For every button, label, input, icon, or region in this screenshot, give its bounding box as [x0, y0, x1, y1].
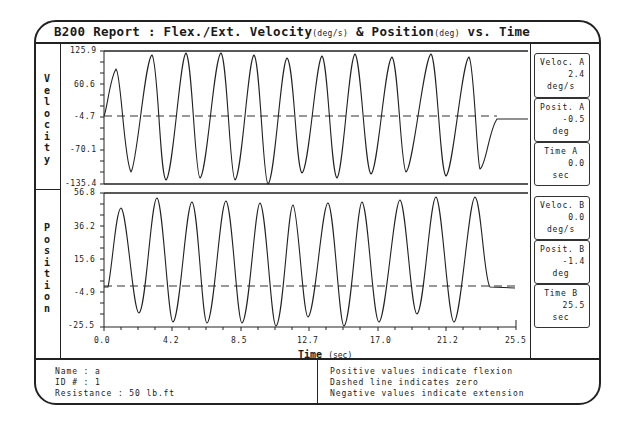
note-extension: Negative values indicate extension — [330, 388, 524, 399]
time-a-value: 0.0 — [537, 158, 585, 170]
veloc-b-value: 0.0 — [537, 212, 585, 224]
posit-b-label: Posit. B — [537, 244, 585, 256]
time-b-readout: Time B 25.5 sec — [534, 284, 590, 328]
veloc-b-label: Veloc. B — [537, 200, 585, 212]
note-zero-line: Dashed line indicates zero — [330, 377, 524, 388]
posit-a-unit: deg — [537, 126, 585, 138]
subject-info: Name : a ID # : 1 Resistance : 50 lb.ft — [55, 366, 175, 399]
posit-b-readout: Posit. B -1.4 deg — [534, 240, 590, 284]
time-b-label: Time B — [537, 288, 585, 300]
veloc-a-unit: deg/s — [537, 81, 585, 93]
posit-b-unit: deg — [537, 268, 585, 280]
posit-a-value: -0.5 — [537, 114, 585, 126]
time-b-value: 25.5 — [537, 300, 585, 312]
note-flexion: Positive values indicate flexion — [330, 366, 524, 377]
subject-id: ID # : 1 — [55, 377, 175, 388]
posit-a-label: Posit. A — [537, 102, 585, 114]
time-a-readout: Time A 0.0 sec — [534, 142, 590, 186]
veloc-a-label: Veloc. A — [537, 57, 585, 69]
veloc-b-unit: deg/s — [537, 224, 585, 236]
position-trace — [104, 197, 515, 326]
veloc-a-value: 2.4 — [537, 69, 585, 81]
subject-resistance: Resistance : 50 lb.ft — [55, 388, 175, 399]
posit-b-value: -1.4 — [537, 256, 585, 268]
subject-name: Name : a — [55, 366, 175, 377]
time-a-label: Time A — [537, 146, 585, 158]
veloc-a-readout: Veloc. A 2.4 deg/s — [534, 53, 590, 98]
legend-notes: Positive values indicate flexion Dashed … — [330, 366, 524, 399]
veloc-b-readout: Veloc. B 0.0 deg/s — [534, 196, 590, 240]
time-b-unit: sec — [537, 312, 585, 324]
posit-a-readout: Posit. A -0.5 deg — [534, 98, 590, 142]
chart-canvas — [0, 0, 623, 425]
velocity-trace — [104, 53, 528, 184]
time-a-unit: sec — [537, 170, 585, 182]
